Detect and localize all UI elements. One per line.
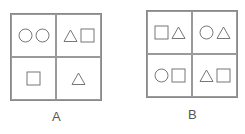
triangle-icon bbox=[71, 71, 86, 86]
figure-b-cell-2 bbox=[192, 11, 237, 54]
figure-b-cell-3 bbox=[147, 54, 192, 97]
circle-icon bbox=[18, 28, 33, 43]
square-icon bbox=[80, 28, 95, 43]
circle-icon bbox=[35, 28, 50, 43]
figure-a-cell-2 bbox=[56, 14, 101, 57]
square-icon bbox=[216, 68, 231, 83]
circle-icon bbox=[154, 68, 169, 83]
square-icon bbox=[154, 25, 169, 40]
figure-a-cell-4 bbox=[56, 57, 101, 100]
circle-icon bbox=[199, 25, 214, 40]
triangle-icon bbox=[171, 25, 186, 40]
triangle-icon bbox=[63, 28, 78, 43]
figure-b-cell-4 bbox=[192, 54, 237, 97]
figure-a-label: A bbox=[52, 109, 61, 124]
square-icon bbox=[171, 68, 186, 83]
figure-a-cell-3 bbox=[11, 57, 56, 100]
figure-a-grid bbox=[10, 13, 102, 101]
triangle-icon bbox=[199, 68, 214, 83]
figure-b-label: B bbox=[188, 107, 197, 122]
figure-b-grid bbox=[146, 10, 238, 98]
figure-a-cell-1 bbox=[11, 14, 56, 57]
triangle-icon bbox=[216, 25, 231, 40]
figure-b-cell-1 bbox=[147, 11, 192, 54]
square-icon bbox=[26, 71, 41, 86]
